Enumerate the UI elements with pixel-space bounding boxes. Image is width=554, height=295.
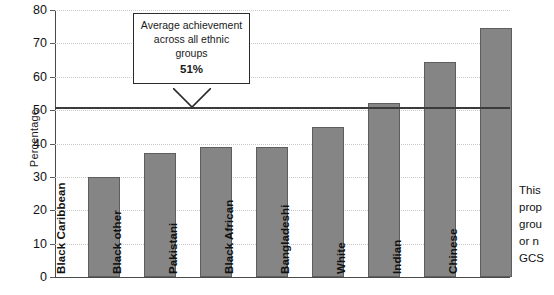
side-note-line-2: prop	[519, 199, 554, 216]
ethnic-group-achievement-bar-chart: Percentage 80 70 60 50 40	[0, 0, 554, 295]
side-note-line-1: This	[519, 182, 554, 199]
y-tick-label: 40	[33, 137, 47, 151]
tick-mark	[50, 277, 55, 278]
plot-area: 80 70 60 50 40 30 20	[55, 10, 510, 278]
tick-mark	[50, 144, 55, 145]
x-axis-line	[55, 277, 510, 278]
tick-mark	[50, 177, 55, 178]
y-tick-label: 20	[33, 203, 47, 217]
callout-line-3: groups	[175, 47, 207, 59]
y-tick-label: 30	[33, 170, 47, 184]
tick-mark	[50, 77, 55, 78]
y-tick-label: 0	[40, 270, 47, 284]
x-label-indian: Indian	[391, 240, 403, 274]
tick-mark	[50, 10, 55, 11]
x-label-bangladeshi: Bangladeshi	[279, 205, 291, 274]
side-note-text: This prop grou or n GCS	[519, 182, 554, 267]
average-callout-box: Average achievement across all ethnic gr…	[133, 13, 250, 84]
callout-value: 51%	[139, 62, 244, 77]
y-tick-label: 60	[33, 70, 47, 84]
y-tick-label: 50	[33, 103, 47, 117]
side-note-line-3: grou	[519, 216, 554, 233]
x-label-black-other: Black other	[111, 210, 123, 274]
x-label-black-african: Black African	[223, 200, 235, 274]
y-tick-label: 70	[33, 36, 47, 50]
x-label-black-caribbean: Black Caribbean	[55, 182, 67, 274]
gridline	[55, 43, 510, 44]
x-label-white: White	[335, 242, 347, 274]
side-note-line-4: or n	[519, 233, 554, 250]
callout-line-1: Average achievement	[141, 19, 242, 31]
y-tick-label: 10	[33, 237, 47, 251]
x-label-pakistani: Pakistani	[167, 223, 179, 274]
callout-line-2: across all ethnic	[154, 33, 229, 45]
y-tick-label: 80	[33, 3, 47, 17]
tick-mark	[50, 110, 55, 111]
average-achievement-line	[55, 107, 510, 109]
callout-pointer-icon	[173, 88, 211, 110]
gridline	[55, 10, 510, 11]
x-label-chinese: Chinese	[447, 229, 459, 274]
bar-chinese	[480, 28, 512, 277]
side-note-line-5: GCS	[519, 250, 554, 267]
tick-mark	[50, 43, 55, 44]
